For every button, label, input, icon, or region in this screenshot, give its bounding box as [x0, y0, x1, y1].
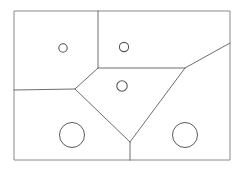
diagram-canvas: [0, 0, 241, 172]
diagram-svg: [0, 0, 241, 172]
